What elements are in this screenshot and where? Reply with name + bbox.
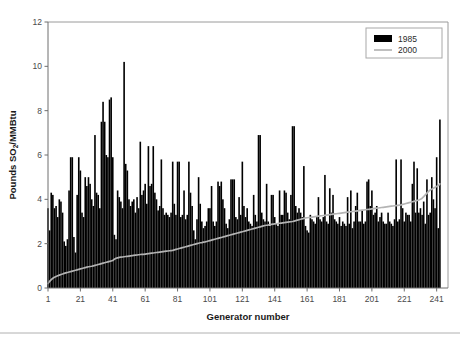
bar	[91, 199, 93, 288]
y-axis-tick-label: 2	[37, 239, 42, 249]
bar	[49, 230, 51, 288]
bar	[177, 162, 179, 288]
bar	[340, 226, 342, 288]
bar	[374, 213, 376, 288]
bar	[115, 239, 117, 288]
bar	[88, 177, 90, 288]
bar	[157, 210, 159, 288]
bar	[269, 226, 271, 288]
bar	[382, 222, 384, 289]
bar	[57, 217, 59, 288]
y-axis-tick-label: 0	[37, 283, 42, 293]
bar	[151, 184, 153, 288]
bar	[89, 184, 91, 288]
bar	[407, 215, 409, 288]
bar	[352, 228, 354, 288]
bar	[159, 206, 161, 288]
bar	[263, 219, 265, 288]
x-axis-tick-label: 101	[203, 294, 217, 304]
bar	[67, 239, 69, 288]
x-axis-tick-label: 1	[46, 294, 51, 304]
bar	[235, 217, 237, 288]
bar	[250, 224, 252, 288]
bar	[439, 120, 441, 288]
bar	[212, 222, 214, 289]
x-axis-tick-label: 221	[397, 294, 411, 304]
bar	[313, 222, 315, 289]
bar	[337, 224, 339, 288]
bar	[196, 219, 198, 288]
bar	[279, 190, 281, 288]
bar	[240, 215, 242, 288]
bar	[174, 204, 176, 288]
bar	[125, 164, 127, 288]
bar	[274, 217, 276, 288]
bar	[266, 184, 268, 288]
bar	[381, 213, 383, 288]
bar	[433, 199, 435, 288]
bar	[93, 206, 95, 288]
bar	[413, 162, 415, 288]
bar	[373, 215, 375, 288]
bar	[363, 224, 365, 288]
bar	[248, 222, 250, 289]
bar	[429, 213, 431, 288]
x-axis-tick-label: 141	[268, 294, 282, 304]
bar	[70, 157, 72, 288]
bar	[319, 219, 321, 288]
y-axis-tick-label: 4	[37, 194, 42, 204]
bar	[201, 222, 203, 289]
bar	[130, 206, 132, 288]
x-axis-tick-label: 121	[235, 294, 249, 304]
bar	[426, 179, 428, 288]
bar	[329, 188, 331, 288]
bar	[135, 213, 137, 288]
bar	[246, 208, 248, 288]
y-axis-title: Pounds SO2/MMBtu	[7, 110, 19, 199]
bar	[209, 208, 211, 288]
bar	[186, 215, 188, 288]
bar	[332, 195, 334, 288]
bar	[208, 208, 210, 288]
bar	[369, 206, 371, 288]
bar	[355, 206, 357, 288]
bar	[50, 193, 52, 288]
bar	[310, 215, 312, 288]
bar	[161, 159, 163, 288]
bar	[405, 213, 407, 288]
bar	[169, 217, 171, 288]
bar	[371, 190, 373, 288]
bar	[254, 215, 256, 288]
bar	[282, 215, 284, 288]
bar	[436, 157, 438, 288]
legend-label-1985: 1985	[398, 34, 417, 44]
bar	[172, 162, 174, 288]
y-axis-tick-label: 10	[33, 61, 43, 71]
bar	[206, 222, 208, 289]
x-axis-tick-label: 201	[365, 294, 379, 304]
bar	[80, 171, 82, 288]
bar	[243, 206, 245, 288]
bar	[122, 208, 124, 288]
bar	[258, 135, 260, 288]
bar	[193, 230, 195, 288]
bar	[107, 157, 109, 288]
bar	[303, 166, 305, 288]
bar	[259, 135, 261, 288]
bar	[290, 195, 292, 288]
x-axis-tick-label: 41	[108, 294, 118, 304]
bar	[425, 224, 427, 288]
bar	[63, 241, 65, 288]
bar	[394, 219, 396, 288]
bar	[287, 213, 289, 288]
bar	[318, 197, 320, 288]
bar	[62, 213, 64, 288]
bar	[361, 210, 363, 288]
bar	[127, 171, 129, 288]
bar	[182, 215, 184, 288]
bar	[379, 217, 381, 288]
bar	[237, 219, 239, 288]
bar	[334, 219, 336, 288]
bar	[386, 224, 388, 288]
x-axis-tick-label: 21	[76, 294, 86, 304]
